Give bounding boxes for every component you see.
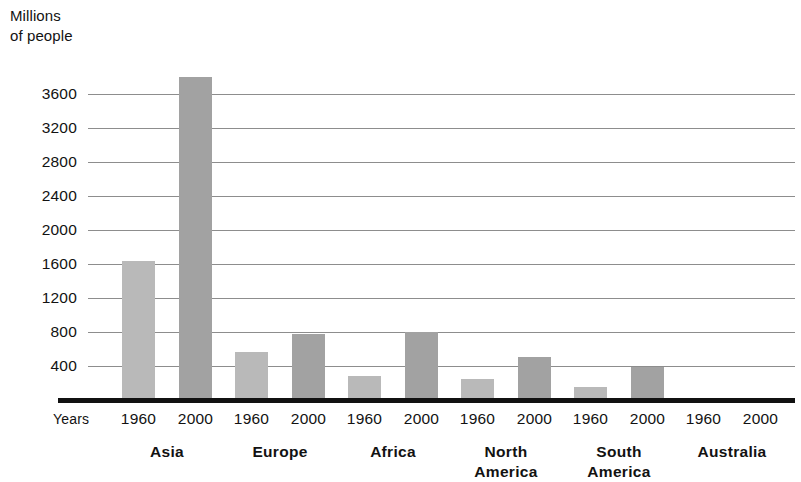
y-axis-tick-label: 1600	[7, 256, 77, 272]
x-axis-tick-label: 1960	[226, 410, 278, 428]
x-axis-tick-label: 2000	[396, 410, 448, 428]
y-axis-tick-label: 400	[7, 358, 77, 374]
bar-north-america-2000	[518, 357, 551, 400]
y-axis-tick-label: 3600	[7, 86, 77, 102]
x-axis-tick-label: 2000	[735, 410, 787, 428]
y-axis-title: Millions of people	[10, 6, 73, 46]
bar-africa-2000	[405, 332, 438, 400]
bar-africa-1960	[348, 376, 381, 400]
x-axis-tick-label: 2000	[170, 410, 222, 428]
category-label-line: North	[485, 443, 528, 460]
y-axis-tick-label: 800	[7, 324, 77, 340]
bar-asia-2000	[179, 77, 212, 400]
category-label-australia: Australia	[667, 442, 797, 462]
category-label-line: Asia	[150, 443, 184, 460]
category-label-line: Africa	[370, 443, 416, 460]
x-axis-tick-label: 1960	[678, 410, 730, 428]
bar-north-america-1960	[461, 379, 494, 400]
x-axis-tick-label: 1960	[565, 410, 617, 428]
x-axis-baseline	[58, 398, 795, 403]
x-axis-tick-label: 1960	[452, 410, 504, 428]
category-label-africa: Africa	[328, 442, 458, 462]
x-axis-tick-label: 2000	[509, 410, 561, 428]
category-label-south-america: SouthAmerica	[554, 442, 684, 482]
y-axis-tick-label: 3200	[7, 120, 77, 136]
x-axis-tick-label: 2000	[283, 410, 335, 428]
category-label-line: Europe	[252, 443, 307, 460]
bar-asia-1960	[122, 261, 155, 400]
bar-chart: Millions of people 360032002800240020001…	[0, 0, 801, 482]
x-axis-tick-label: 1960	[339, 410, 391, 428]
bar-south-america-2000	[631, 367, 664, 400]
years-row-label: Years	[53, 411, 89, 427]
category-label-europe: Europe	[215, 442, 345, 462]
category-label-line: Australia	[697, 443, 766, 460]
category-label-north-america: NorthAmerica	[441, 442, 571, 482]
category-label-line: South	[596, 443, 641, 460]
y-axis-tick-label: 2400	[7, 188, 77, 204]
x-axis-tick-label: 2000	[622, 410, 674, 428]
plot-area: 3600320028002400200016001200800400	[88, 60, 795, 400]
category-label-line: America	[474, 463, 537, 480]
category-label-line: America	[587, 463, 650, 480]
y-axis-tick-label: 2800	[7, 154, 77, 170]
y-axis-tick-label: 1200	[7, 290, 77, 306]
x-axis-tick-label: 1960	[113, 410, 165, 428]
bar-europe-2000	[292, 334, 325, 400]
category-label-asia: Asia	[102, 442, 232, 462]
y-axis-tick-label: 2000	[7, 222, 77, 238]
bar-europe-1960	[235, 352, 268, 400]
